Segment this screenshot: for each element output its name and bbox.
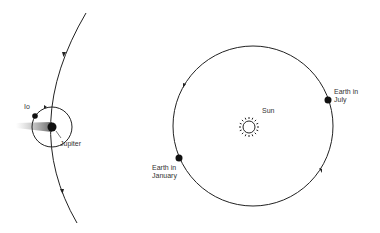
jupiter-orbit-path [51,13,86,223]
sun [239,117,259,137]
earth-july-label-line1: Earth in [334,88,358,96]
io [32,113,38,119]
earth-july-label: Earth in July [334,88,358,104]
earth-january-label: Earth in January [152,164,177,180]
io-label: Io [24,103,30,111]
earth-january [176,155,183,162]
jupiter-shadow [16,122,52,132]
jupiter-label: Jupiter [60,140,81,148]
sun-label: Sun [262,107,274,115]
diagram-canvas [0,0,380,233]
earth-july [325,97,332,104]
jupiter-pointer [56,131,61,138]
earth-january-label-line2: January [152,172,177,180]
direction-arrow-icon [60,189,64,194]
earth-july-label-line2: July [334,96,358,104]
earth-january-label-line1: Earth in [152,164,177,172]
jupiter [48,123,57,132]
